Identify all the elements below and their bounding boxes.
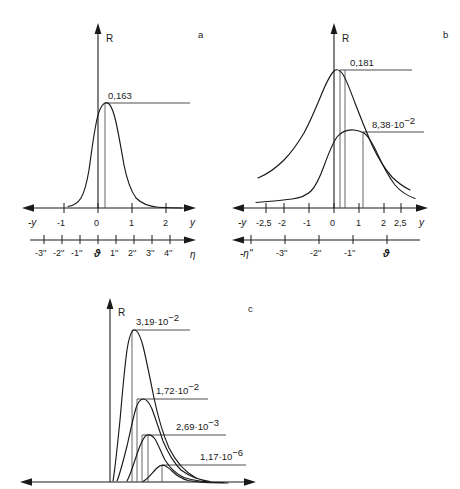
- panel-b-curve-narrow: [256, 130, 415, 203]
- panel-c-peak2-mantissa: 1,72·10: [156, 385, 188, 396]
- panel-c-peak2-value-label: 1,72·10−2: [156, 381, 199, 396]
- panel-b-peak2-mantissa: 8,38·10: [372, 119, 404, 130]
- panel-b-x-axis-right-arrowhead: [416, 204, 428, 212]
- panel-b-ticklabel-neg1: -1: [303, 218, 311, 228]
- panel-a: R -1 0 1 2 -y y: [22, 23, 196, 260]
- panel-a-eta-label-1: 1'': [110, 248, 119, 258]
- panel-c-x-axis-left-arrowhead: [20, 478, 32, 486]
- panel-c-peak3-mantissa: 2,69·10: [176, 421, 208, 432]
- panel-b-eta-label-neg2: -2'': [310, 248, 322, 258]
- panel-b-eta-label-neg1: -1'': [344, 248, 356, 258]
- panel-b-ticklabel-1: 1: [356, 218, 361, 228]
- panel-b-ticklabel-25: 2,5: [394, 218, 407, 228]
- panel-b-ordinate-label: R: [342, 33, 349, 44]
- panel-c-peak4-mantissa: 1,17·10: [200, 451, 232, 462]
- panel-c: R 3,19·10−2 1,72·10−2 2,69·10−3 1,17·10−…: [20, 298, 256, 486]
- panel-b-peak2-exponent: −2: [404, 115, 415, 126]
- panel-a-peak-value-label: 0,163: [108, 90, 132, 101]
- panel-b: R -2,5 -2 -1 0 1 2 2,5 -y y: [232, 23, 448, 259]
- panel-b-y-axis-arrowhead: [331, 23, 338, 34]
- panel-a-ticklabel-neg1: -1: [57, 218, 65, 228]
- panel-b-ticklabel-2: 2: [381, 218, 386, 228]
- panel-c-peak2-exponent: −2: [188, 381, 199, 392]
- panel-c-curve-1: [113, 330, 196, 481]
- panel-c-peak1-value-label: 3,19·10−2: [136, 312, 179, 327]
- panel-a-eta-label-4: 4'': [164, 248, 173, 258]
- panel-a-eta-label-theta: ϑ: [93, 247, 101, 259]
- panel-a-eta-label-neg1: -1'': [71, 248, 83, 258]
- panel-b-x-axis-left-arrowhead: [232, 204, 244, 212]
- panel-b-peak1-value-label: 0,181: [350, 57, 374, 68]
- panel-b-eta-axis-arrowhead: [232, 236, 244, 243]
- figure-root: R -1 0 1 2 -y y: [0, 0, 460, 489]
- panel-a-letter: a: [198, 29, 204, 40]
- panel-a-eta-label-neg2: -2'': [53, 248, 65, 258]
- panel-b-letter: b: [443, 29, 448, 40]
- panel-b-y-label: y: [418, 217, 425, 228]
- panel-a-eta-label-neg3: -3'': [35, 248, 47, 258]
- panel-a-ticklabel-2: 2: [163, 218, 168, 228]
- panel-b-peak2-value-label: 8,38·10−2: [372, 115, 415, 130]
- figure-svg: R -1 0 1 2 -y y: [0, 0, 460, 489]
- panel-b-ticklabel-neg2: -2: [278, 218, 286, 228]
- panel-c-peak4-value-label: 1,17·10−6: [200, 447, 243, 462]
- panel-a-neg-y-label: -y: [28, 217, 37, 228]
- panel-a-x-axis-left-arrowhead: [22, 204, 34, 212]
- panel-b-eta-label-neg3: -3'': [276, 248, 288, 258]
- panel-a-y-label: y: [189, 217, 196, 228]
- panel-c-x-axis-right-arrowhead: [244, 478, 256, 486]
- panel-b-neg-y-label: -y: [238, 217, 247, 228]
- panel-c-y-axis-arrowhead: [107, 298, 114, 309]
- panel-a-ticklabel-1: 1: [129, 218, 134, 228]
- panel-c-peak4-exponent: −6: [232, 447, 243, 458]
- panel-a-eta-axis-name: η: [190, 249, 196, 260]
- panel-c-ordinate-label: R: [118, 307, 125, 318]
- panel-c-peak1-mantissa: 3,19·10: [136, 316, 168, 327]
- panel-a-ordinate-label: R: [106, 33, 113, 44]
- panel-a-eta-axis-arrowhead: [184, 236, 196, 243]
- panel-b-ticklabel-0: 0: [330, 218, 335, 228]
- panel-a-eta-label-2: 2'': [128, 248, 137, 258]
- panel-a-eta-label-3: 3'': [146, 248, 155, 258]
- panel-a-ticklabel-0: 0: [94, 218, 99, 228]
- panel-a-curve-1: [68, 103, 182, 208]
- panel-c-curve-4: [143, 465, 228, 483]
- panel-c-peak1-exponent: −2: [168, 312, 179, 323]
- panel-b-ticklabel-neg25: -2,5: [256, 218, 272, 228]
- panel-c-letter: c: [248, 303, 253, 314]
- panel-b-eta-label-theta: ϑ: [382, 247, 390, 259]
- panel-c-peak3-exponent: −3: [208, 417, 219, 428]
- panel-c-peak3-value-label: 2,69·10−3: [176, 417, 219, 432]
- panel-a-x-axis-right-arrowhead: [184, 204, 196, 212]
- panel-b-eta-label-negeta: -η'': [240, 248, 254, 259]
- panel-a-y-axis-arrowhead: [95, 23, 102, 34]
- panel-c-curve-2: [117, 399, 210, 482]
